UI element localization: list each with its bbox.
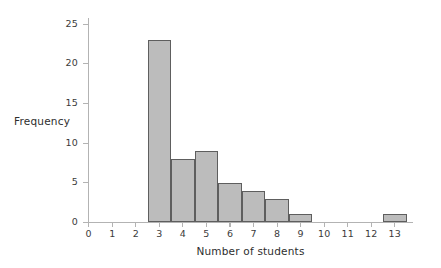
x-tick-7 <box>253 222 254 227</box>
x-tick-label: 2 <box>126 228 146 241</box>
histogram-bar <box>218 183 242 223</box>
histogram-bar <box>265 199 289 223</box>
x-axis-title: Number of students <box>88 245 413 257</box>
x-tick-0 <box>88 222 89 227</box>
x-tick-label-text: 12 <box>361 228 381 239</box>
y-tick-label: 20 <box>56 57 78 69</box>
x-tick-5 <box>206 222 207 227</box>
x-tick-label-text: 8 <box>267 228 287 239</box>
x-tick-label: 7 <box>244 228 264 241</box>
x-tick-label-text: 11 <box>338 228 358 239</box>
x-tick-label-text: 1 <box>102 228 122 239</box>
y-axis-title: Frequency <box>14 115 70 127</box>
x-tick-3 <box>159 222 160 227</box>
x-tick-label: 13 <box>385 228 405 241</box>
histogram-bar <box>148 40 172 222</box>
x-tick-13 <box>394 222 395 227</box>
y-tick-10 <box>83 143 89 144</box>
x-tick-label: 4 <box>173 228 193 241</box>
y-tick-label: 5 <box>56 176 78 188</box>
histogram-bar <box>195 151 219 222</box>
x-tick-label: 8 <box>267 228 287 241</box>
y-tick-20 <box>83 63 89 64</box>
y-tick-label: 10 <box>56 137 78 149</box>
x-tick-10 <box>324 222 325 227</box>
y-tick-label-text: 20 <box>56 57 78 68</box>
x-tick-label-text: 3 <box>149 228 169 239</box>
x-tick-label: 9 <box>291 228 311 241</box>
histogram-bar <box>383 214 407 222</box>
y-tick-label: 15 <box>56 97 78 109</box>
x-tick-9 <box>300 222 301 227</box>
x-tick-4 <box>182 222 183 227</box>
plot-area: 0510152025 012345678910111213 Frequency … <box>0 0 441 268</box>
x-tick-label: 3 <box>149 228 169 241</box>
x-tick-label-text: 6 <box>220 228 240 239</box>
y-tick-5 <box>83 182 89 183</box>
y-tick-label-text: 10 <box>56 137 78 148</box>
x-tick-8 <box>277 222 278 227</box>
x-tick-label-text: 5 <box>196 228 216 239</box>
x-tick-label: 11 <box>338 228 358 241</box>
x-tick-label: 1 <box>102 228 122 241</box>
x-tick-label: 6 <box>220 228 240 241</box>
x-tick-label: 10 <box>314 228 334 241</box>
y-tick-label-text: 5 <box>56 176 78 187</box>
x-tick-label: 5 <box>196 228 216 241</box>
histogram-bar <box>289 214 313 222</box>
x-tick-label: 0 <box>79 228 99 241</box>
y-tick-label: 25 <box>56 18 78 30</box>
x-tick-label-text: 0 <box>79 228 99 239</box>
y-axis-line <box>88 18 89 223</box>
x-tick-label-text: 2 <box>126 228 146 239</box>
y-tick-label: 0 <box>56 216 78 228</box>
x-tick-11 <box>347 222 348 227</box>
x-tick-label-text: 7 <box>244 228 264 239</box>
y-tick-label-text: 15 <box>56 97 78 108</box>
histogram-bar <box>171 159 195 222</box>
x-tick-label: 12 <box>361 228 381 241</box>
x-tick-label-text: 4 <box>173 228 193 239</box>
y-tick-15 <box>83 103 89 104</box>
histogram-chart: 0510152025 012345678910111213 Frequency … <box>0 0 441 268</box>
x-tick-label-text: 9 <box>291 228 311 239</box>
y-tick-label-text: 0 <box>56 216 78 227</box>
y-tick-25 <box>83 24 89 25</box>
x-tick-label-text: 13 <box>385 228 405 239</box>
y-tick-label-text: 25 <box>56 18 78 29</box>
x-tick-1 <box>112 222 113 227</box>
x-tick-6 <box>229 222 230 227</box>
histogram-bar <box>242 191 266 223</box>
x-tick-12 <box>371 222 372 227</box>
x-tick-label-text: 10 <box>314 228 334 239</box>
x-tick-2 <box>135 222 136 227</box>
